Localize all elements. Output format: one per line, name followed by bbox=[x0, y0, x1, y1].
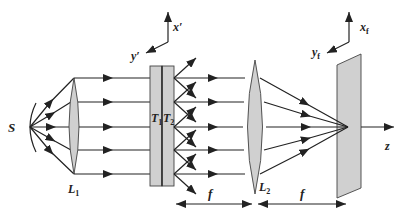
axes-plate bbox=[146, 12, 168, 53]
axis-z-label: z bbox=[384, 139, 390, 153]
focal-length-2-label: f bbox=[300, 186, 306, 201]
lens-l1 bbox=[69, 78, 79, 174]
axis-xf-label: xf bbox=[359, 20, 369, 36]
diffracted-rays bbox=[174, 58, 245, 194]
lens-l2-label: L2 bbox=[258, 180, 270, 196]
lens-l1-label: L1 bbox=[67, 182, 79, 198]
axis-yf-label: yf bbox=[310, 45, 320, 61]
source-label: S bbox=[8, 120, 15, 135]
axes-focal bbox=[327, 12, 349, 53]
focal-length-1-label: f bbox=[208, 186, 214, 201]
focal-screen bbox=[337, 54, 361, 198]
converging-rays bbox=[260, 78, 348, 174]
axis-x-prime-label: x′ bbox=[172, 20, 182, 34]
source-rays bbox=[30, 78, 74, 174]
collimated-rays bbox=[74, 78, 150, 174]
axis-y-prime-label: y′ bbox=[129, 49, 140, 63]
optical-diagram: S L1 T1 T2 L2 x′ y′ xf yf z f f bbox=[0, 0, 412, 217]
